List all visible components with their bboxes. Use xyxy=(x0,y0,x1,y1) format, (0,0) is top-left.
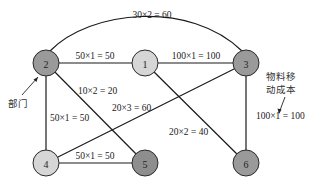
node-6: 6 xyxy=(233,150,259,176)
edge-label-1-3: 100×1 = 100 xyxy=(172,51,221,61)
node-label-1: 1 xyxy=(143,59,148,70)
node-label-3: 3 xyxy=(244,59,249,70)
node-label-2: 2 xyxy=(44,59,49,70)
edges-layer xyxy=(46,16,246,163)
edge-2-3 xyxy=(50,16,242,51)
node-label-5: 5 xyxy=(143,159,148,170)
edge-label-1-6: 20×2 = 40 xyxy=(169,127,208,137)
node-1: 1 xyxy=(132,50,158,76)
edge-1-6 xyxy=(145,63,246,163)
node-label-4: 4 xyxy=(44,159,49,170)
edge-label-4-3: 20×3 = 60 xyxy=(112,103,151,113)
edge-label-2-4: 50×1 = 50 xyxy=(50,113,89,123)
flow-diagram: 30×2 = 6050×1 = 50100×1 = 10010×2 = 2020… xyxy=(0,0,313,185)
node-3: 3 xyxy=(233,50,259,76)
node-2: 2 xyxy=(33,50,59,76)
material-cost-annotation-line2: 动成本 xyxy=(266,84,296,95)
node-4: 4 xyxy=(33,150,59,176)
material-cost-example: 100×1 = 100 xyxy=(256,111,305,121)
department-annotation: 部门 xyxy=(8,98,28,109)
edge-label-2-1: 50×1 = 50 xyxy=(75,51,114,61)
edge-label-2-5: 10×2 = 20 xyxy=(78,86,117,96)
node-label-6: 6 xyxy=(244,159,249,170)
edge-label-4-5: 50×1 = 50 xyxy=(75,151,114,161)
edge-label-2-3: 30×2 = 60 xyxy=(132,10,171,20)
node-5: 5 xyxy=(132,150,158,176)
material-cost-annotation-line1: 物料移 xyxy=(266,71,296,82)
